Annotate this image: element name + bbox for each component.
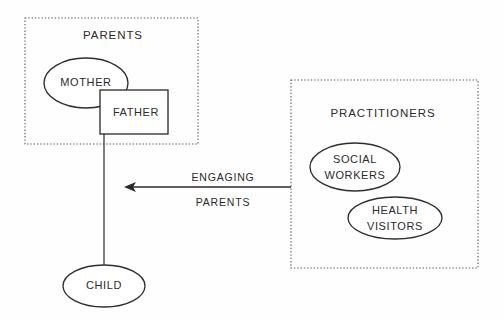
engaging-parents-diagram: PARENTS PRACTITIONERS MOTHER FATHER CHIL… — [0, 0, 504, 320]
node-label-mother: MOTHER — [60, 76, 111, 88]
diagram-canvas: PARENTS PRACTITIONERS MOTHER FATHER CHIL… — [0, 0, 504, 320]
node-label-child: CHILD — [86, 279, 122, 291]
node-label-health-visitors-line1: HEALTH — [372, 204, 418, 216]
node-label-health-visitors-line2: VISITORS — [367, 220, 423, 232]
group-label-practitioners: PRACTITIONERS — [331, 107, 436, 119]
node-label-father: FATHER — [113, 106, 159, 118]
node-label-social-workers-line1: SOCIAL — [333, 153, 377, 165]
node-social-workers[interactable] — [310, 143, 400, 191]
arrow-label-parents: PARENTS — [196, 196, 250, 208]
group-label-parents: PARENTS — [83, 29, 143, 41]
arrow-label-engaging: ENGAGING — [192, 171, 255, 183]
node-label-social-workers-line2: WORKERS — [324, 169, 385, 181]
